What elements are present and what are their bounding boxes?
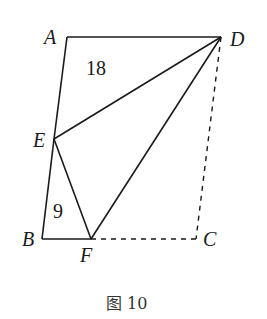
segment-FD <box>91 37 221 239</box>
label-F: F <box>79 244 93 266</box>
figure-caption: 图 10 <box>106 294 147 313</box>
label-E: E <box>32 129 45 151</box>
geometry-diagram: A D E B F C 18 9 图 10 <box>0 0 267 319</box>
segment-EF <box>54 139 91 239</box>
segment-AE <box>54 37 67 139</box>
label-D: D <box>229 28 245 50</box>
area-label-AED: 18 <box>86 57 106 79</box>
area-label-BEF: 9 <box>53 200 63 222</box>
label-B: B <box>22 228 34 250</box>
segment-ED <box>54 37 221 139</box>
segment-EB <box>42 139 54 239</box>
label-A: A <box>42 26 57 48</box>
segment-DC-dashed <box>196 37 221 239</box>
label-C: C <box>203 228 217 250</box>
